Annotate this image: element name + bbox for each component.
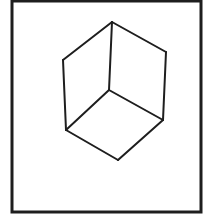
cube-edge-center-lower_right bbox=[109, 90, 163, 120]
cube-edge-lower_right-bottom bbox=[118, 120, 163, 160]
cube-edge-top-center bbox=[109, 22, 112, 90]
cube-edge-upper_right-lower_right bbox=[163, 52, 166, 120]
cube-edge-center-lower_left bbox=[66, 90, 109, 130]
cube-edge-upper_left-lower_left bbox=[63, 60, 66, 130]
cube-figure bbox=[0, 0, 214, 216]
cube-edge-top-upper_right bbox=[112, 22, 166, 52]
cube-edges bbox=[63, 22, 166, 160]
cube-edge-top-upper_left bbox=[63, 22, 112, 60]
cube-edge-lower_left-bottom bbox=[66, 130, 118, 160]
frame-border bbox=[12, 1, 201, 212]
